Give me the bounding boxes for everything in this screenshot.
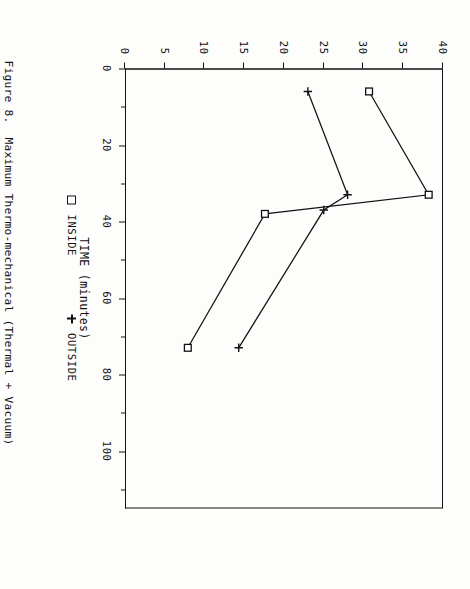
y-tick-label: 10: [199, 40, 211, 54]
y-tick: [402, 62, 403, 68]
x-tick-label: 40: [101, 214, 113, 228]
square-open-marker: [262, 210, 269, 217]
x-tick-label: 20: [101, 138, 113, 152]
y-tick: [164, 62, 165, 68]
plus-marker: [304, 87, 312, 95]
y-tick: [283, 62, 284, 68]
figure-caption: Figure 8. Maximum Thermo-mechanical (The…: [0, 60, 52, 530]
y-tick-label: 5: [159, 47, 171, 54]
y-tick: [323, 62, 324, 68]
legend-entry-outside: OUTSIDE: [66, 314, 78, 381]
legend-label-outside: OUTSIDE: [66, 333, 78, 381]
square-open-marker: [184, 344, 191, 351]
square-open-marker: [425, 191, 432, 198]
series-line-outside: [239, 91, 348, 347]
square-open-marker-icon: [68, 195, 77, 204]
y-tick-label: 20: [278, 40, 290, 54]
y-tick-label: 40: [437, 40, 449, 54]
x-tick-label: 100: [101, 440, 113, 460]
legend-label-inside: INSIDE: [66, 214, 78, 256]
x-tick-label: 80: [101, 367, 113, 381]
legend-entry-inside: INSIDE: [66, 195, 78, 256]
x-tick-label: 60: [101, 291, 113, 305]
y-tick-label: 30: [358, 40, 370, 54]
y-tick: [363, 62, 364, 68]
plot-area: 020406080100 0510152025303540 TIME (minu…: [125, 68, 443, 508]
caption-line-1: Figure 8. Maximum Thermo-mechanical (The…: [0, 60, 17, 530]
series-line-inside: [188, 91, 429, 347]
y-tick-label: 35: [397, 40, 409, 54]
series-layer: [125, 68, 443, 508]
figure-canvas: 020406080100 0510152025303540 TIME (minu…: [0, 0, 470, 589]
plus-marker: [234, 343, 242, 351]
y-tick: [243, 62, 244, 68]
plus-marker-icon: [68, 314, 77, 323]
y-tick: [204, 62, 205, 68]
y-tick-label: 0: [119, 47, 131, 54]
legend: INSIDE OUTSIDE: [66, 68, 78, 508]
y-tick: [442, 62, 443, 68]
x-tick-label: 0: [101, 65, 113, 72]
y-tick-label: 15: [238, 40, 250, 54]
x-axis-title: TIME (minutes): [77, 68, 91, 508]
y-tick: [124, 62, 125, 68]
square-open-marker: [366, 88, 373, 95]
y-tick-label: 25: [318, 40, 330, 54]
